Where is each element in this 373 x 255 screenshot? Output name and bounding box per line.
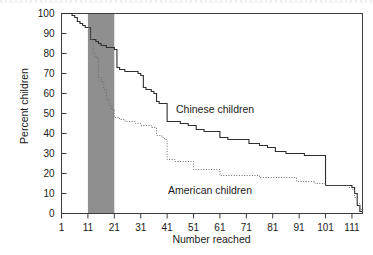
y-tick-label: 30 (17, 149, 55, 159)
series-label-american: American children (168, 184, 252, 196)
series-label-chinese: Chinese children (176, 103, 254, 115)
y-tick-label: 10 (17, 189, 55, 199)
x-tick-label: 111 (336, 223, 368, 233)
y-tick-label: 70 (17, 69, 55, 79)
x-axis-label: Number reached (61, 233, 362, 245)
line-chart-plot (0, 0, 373, 255)
y-tick-label: 90 (17, 29, 55, 39)
y-tick-label: 80 (17, 49, 55, 59)
y-tick-label: 50 (17, 109, 55, 119)
y-tick-label: 100 (17, 9, 55, 19)
y-tick-label: 60 (17, 89, 55, 99)
figure-container: Percent children Number reached Chinese … (0, 0, 373, 255)
y-tick-label: 40 (17, 129, 55, 139)
y-tick-label: 20 (17, 169, 55, 179)
y-tick-label: 0 (17, 209, 55, 219)
